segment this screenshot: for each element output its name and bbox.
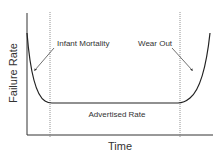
infant-mortality-arrow xyxy=(35,48,54,70)
x-axis-label: Time xyxy=(108,140,132,152)
y-axis-label: Failure Rate xyxy=(7,43,19,103)
wear-out-arrow xyxy=(172,48,192,70)
wear-out-label: Wear Out xyxy=(138,39,173,48)
diagram-svg: Infant Mortality Wear Out Advertised Rat… xyxy=(0,0,221,157)
advertised-rate-label: Advertised Rate xyxy=(89,110,146,119)
bathtub-curve xyxy=(27,33,210,103)
infant-mortality-label: Infant Mortality xyxy=(57,39,109,48)
bathtub-curve-diagram: Infant Mortality Wear Out Advertised Rat… xyxy=(0,0,221,157)
